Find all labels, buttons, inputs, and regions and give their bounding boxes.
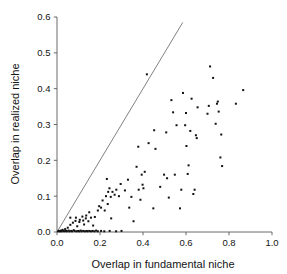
x-tick-label: 0.0	[50, 237, 63, 248]
data-point	[114, 194, 116, 196]
data-point	[82, 220, 84, 222]
one-to-one-reference-line	[57, 22, 183, 232]
data-point	[215, 123, 217, 125]
data-point	[188, 164, 190, 166]
data-point	[68, 230, 70, 232]
data-point	[133, 220, 135, 222]
chart-canvas: 0.00.20.40.60.81.0 0.00.10.20.30.40.50.6…	[0, 0, 287, 274]
data-point	[94, 216, 96, 218]
data-point	[108, 187, 110, 189]
data-point	[110, 217, 112, 219]
data-point	[235, 103, 237, 105]
data-point	[127, 179, 129, 181]
data-point	[209, 65, 211, 67]
data-point	[176, 124, 178, 126]
data-point	[81, 216, 83, 218]
data-point	[104, 210, 106, 212]
data-point	[217, 101, 219, 103]
data-point	[165, 131, 167, 133]
data-point	[142, 184, 144, 186]
data-point	[242, 89, 244, 91]
data-point	[152, 207, 154, 209]
data-point	[85, 217, 87, 219]
data-point	[220, 134, 222, 136]
data-point	[184, 124, 186, 126]
data-point	[172, 111, 174, 113]
data-point	[71, 230, 73, 232]
y-tick-label: 0.2	[37, 155, 50, 166]
y-tick-label: 0.3	[37, 119, 50, 130]
data-point	[82, 230, 84, 232]
data-point	[118, 195, 120, 197]
data-point	[179, 207, 181, 209]
data-point	[92, 225, 94, 227]
data-point	[182, 92, 184, 94]
data-point	[106, 178, 108, 180]
data-point	[107, 203, 109, 205]
data-point	[105, 195, 107, 197]
data-point	[124, 189, 126, 191]
y-tick-label: 0.5	[37, 47, 50, 58]
data-point	[128, 207, 130, 209]
data-point	[110, 196, 112, 198]
y-tick-label: 0.6	[37, 11, 50, 22]
data-point	[79, 219, 81, 221]
data-point	[111, 191, 113, 193]
data-point	[97, 210, 99, 212]
data-point	[88, 211, 90, 213]
data-point	[87, 220, 89, 222]
data-point	[103, 230, 105, 232]
y-axis-title: Overlap in realized niche	[9, 63, 21, 184]
data-point	[142, 187, 144, 189]
data-point	[141, 174, 143, 176]
data-point	[163, 174, 165, 176]
data-point	[93, 230, 95, 232]
data-point	[168, 197, 170, 199]
data-point	[67, 227, 69, 229]
data-point	[107, 191, 109, 193]
data-point	[130, 196, 132, 198]
scatter-plot-figure: 0.00.20.40.60.81.0 0.00.10.20.30.40.50.6…	[0, 0, 287, 274]
data-point	[100, 230, 102, 232]
data-point	[221, 165, 223, 167]
data-point	[194, 189, 196, 191]
data-point	[180, 189, 182, 191]
data-point	[219, 156, 221, 158]
data-point	[74, 220, 76, 222]
data-point	[195, 134, 197, 136]
data-point	[64, 228, 66, 230]
data-point	[192, 193, 194, 195]
chart-axes	[54, 17, 272, 235]
data-point	[100, 207, 102, 209]
data-point	[90, 230, 92, 232]
data-point	[148, 142, 150, 144]
data-point	[218, 111, 220, 113]
data-point	[92, 230, 94, 232]
y-tick-label: 0.4	[37, 83, 50, 94]
data-point	[66, 230, 68, 232]
x-tick-label: 0.4	[136, 237, 149, 248]
data-point	[69, 224, 71, 226]
data-point	[174, 174, 176, 176]
data-point	[189, 130, 191, 132]
data-point	[197, 106, 199, 108]
x-tick-label: 0.2	[93, 237, 106, 248]
data-point	[196, 137, 198, 139]
data-point	[76, 225, 78, 227]
data-point	[154, 148, 156, 150]
x-tick-label: 0.8	[222, 237, 235, 248]
data-point	[207, 113, 209, 115]
data-point	[102, 199, 104, 201]
data-point	[75, 217, 77, 219]
data-point	[115, 189, 117, 191]
y-axis-tick-labels: 0.00.10.20.30.40.50.6	[37, 11, 50, 237]
data-point	[83, 223, 85, 225]
y-tick-label: 0.1	[37, 191, 50, 202]
data-point	[78, 221, 80, 223]
data-point	[90, 217, 92, 219]
data-point	[69, 217, 71, 219]
data-point	[153, 129, 155, 131]
data-point-series	[57, 65, 244, 232]
data-point	[159, 186, 161, 188]
data-point	[75, 230, 77, 232]
